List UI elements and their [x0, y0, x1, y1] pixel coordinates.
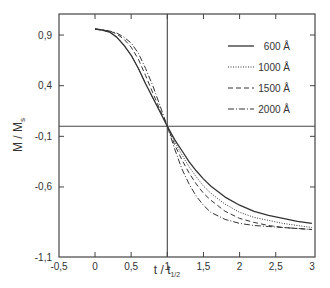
x-tick-label: 0 — [92, 261, 98, 272]
curve-1500 — [95, 29, 312, 230]
legend-label: 1500 Å — [258, 82, 290, 94]
curve-1000 — [95, 29, 312, 228]
y-tick-label: -1,1 — [35, 252, 53, 263]
y-tick-label: 0,9 — [38, 30, 52, 41]
chart: -0,500,511,522,530,90,4-0,1-0,6-1,1 600 … — [0, 0, 330, 288]
legend: 600 Å1000 Å1500 Å2000 Å — [228, 40, 290, 115]
x-tick-label: 2 — [237, 261, 243, 272]
x-axis-title-sub: 1/2 — [170, 271, 180, 278]
x-tick-label: 3 — [309, 261, 315, 272]
y-tick-label: -0,1 — [35, 131, 53, 142]
legend-label: 1000 Å — [258, 61, 290, 73]
y-axis-title-sub: s — [18, 118, 27, 122]
legend-label: 600 Å — [264, 40, 290, 52]
x-tick-label: -0,5 — [50, 261, 68, 272]
y-tick-label: -0,6 — [35, 181, 53, 192]
curve-2000 — [95, 29, 312, 230]
y-axis-title: M / Ms — [11, 118, 27, 152]
x-axis-title-main: t / t — [154, 263, 171, 277]
y-axis-title-main: M / M — [11, 122, 25, 152]
legend-label: 2000 Å — [258, 103, 290, 115]
x-tick-label: 1,5 — [196, 261, 210, 272]
x-tick-label: 0,5 — [124, 261, 138, 272]
x-axis-title: t / t1/2 — [154, 263, 181, 278]
data-curves — [95, 29, 312, 230]
y-tick-label: 0,4 — [38, 80, 52, 91]
axis-ticks: -0,500,511,522,530,90,4-0,1-0,6-1,1 — [35, 14, 315, 272]
x-tick-label: 2,5 — [269, 261, 283, 272]
